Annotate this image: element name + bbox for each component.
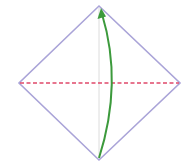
origami-diagram: [0, 0, 190, 167]
fold-up-arrow: [99, 14, 112, 158]
fold-diagram-canvas: [0, 0, 190, 167]
